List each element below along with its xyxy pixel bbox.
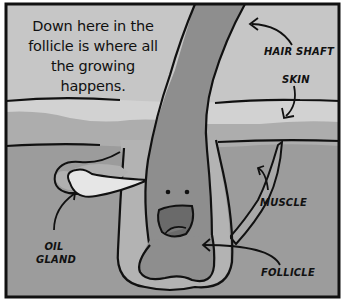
caption: Down here in the follicle is where all t…	[18, 16, 168, 96]
label-oil-gland-line-1: OIL	[36, 240, 72, 253]
label-hair-shaft: HAIR SHAFT	[264, 45, 334, 58]
label-skin: SKIN	[282, 73, 310, 86]
mouth	[158, 206, 193, 237]
label-oil-gland-line-2: GLAND	[36, 253, 72, 266]
comic-panel: Down here in the follicle is where all t…	[0, 0, 343, 301]
label-oil-gland: OIL GLAND	[36, 240, 72, 266]
caption-line-3: the growing happens.	[18, 56, 168, 96]
eye-right	[185, 190, 190, 195]
caption-line-2: follicle is where all	[18, 36, 168, 56]
label-muscle: MUSCLE	[260, 196, 307, 209]
label-follicle: FOLLICLE	[261, 266, 315, 279]
eye-left	[166, 190, 171, 195]
caption-line-1: Down here in the	[18, 16, 168, 36]
